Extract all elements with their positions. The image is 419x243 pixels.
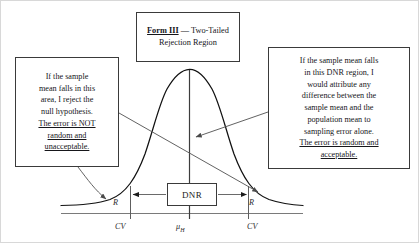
right-callout-line-1: If the sample mean falls [272,55,406,67]
left-callout-connector-right-tail [119,113,258,192]
right-callout-line-7: sampling error alone. [272,126,406,138]
right-callout-line-4: difference between the [272,90,406,102]
critical-value-label-left: CV [115,222,125,231]
right-callout-line-5: sample mean and the [272,102,406,114]
left-callout-underlined-3: unacceptable. [19,141,115,153]
right-callout-underlined-2: acceptable. [272,149,406,161]
right-callout-line-2: in this DNR region, I [272,67,406,79]
left-callout-line-4: null hypothesis. [19,106,115,118]
rejection-label-right: R [249,198,254,207]
dnr-label: DNR [182,190,202,200]
mu-subscript: H [180,227,184,233]
hypothesized-mean-label: μH [176,222,184,233]
left-callout-line-3: area, I reject the [19,94,115,106]
title-callout-box: Form III — Two-Tailed Rejection Region [136,12,240,62]
dnr-region-box: DNR [167,183,217,206]
right-callout-line-3: would attribute any [272,79,406,91]
left-callout-line-1: If the sample [19,71,115,83]
left-callout-underlined-2: random and [19,130,115,142]
left-callout-underlined-1: The error is NOT [19,118,115,130]
right-callout-underlined-1: The error is random and [272,137,406,149]
left-callout-connector [78,167,106,199]
left-callout-box: If the sample mean falls in this area, I… [15,57,119,167]
critical-value-label-right: CV [247,222,257,231]
right-callout-connector [196,112,268,137]
right-callout-line-6: population mean to [272,114,406,126]
left-callout-line-2: mean falls in this [19,83,115,95]
right-callout-box: If the sample mean falls in this DNR reg… [268,47,410,169]
title-strong: Form III [147,26,179,35]
rejection-label-left: R [113,198,118,207]
figure-canvas: Form III — Two-Tailed Rejection Region I… [0,0,419,243]
